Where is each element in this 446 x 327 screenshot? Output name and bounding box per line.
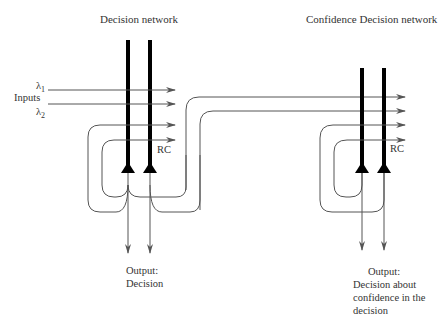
confidence-output-label: Output:	[368, 266, 400, 279]
confidence-output-line-3: decision	[353, 305, 388, 318]
confidence-rc-label: RC	[390, 143, 404, 155]
confidence-output-line-1: Decision about	[353, 279, 416, 292]
decision-triangle-1	[121, 162, 135, 173]
confidence-network-title: Confidence Decision network	[306, 13, 437, 25]
decision-output-desc: Decision	[126, 278, 163, 291]
recurrent-loop-bridge	[128, 155, 186, 197]
confidence-triangle-1	[355, 162, 369, 173]
decision-output-label: Output:	[126, 265, 158, 278]
decision-network	[48, 40, 200, 253]
decision-network-title: Decision network	[100, 13, 178, 25]
lambda-2-label: λ2	[36, 106, 45, 122]
confidence-triangle-2	[377, 162, 391, 173]
recurrent-loop-outer	[88, 125, 200, 212]
connector-inner	[200, 111, 405, 210]
inter-network-connections	[175, 90, 405, 210]
confidence-network	[320, 68, 405, 250]
confidence-output-line-2: confidence in the	[353, 292, 425, 305]
inputs-label: Inputs	[14, 92, 40, 104]
decision-rc-label: RC	[157, 144, 171, 156]
decision-triangle-2	[143, 162, 157, 173]
